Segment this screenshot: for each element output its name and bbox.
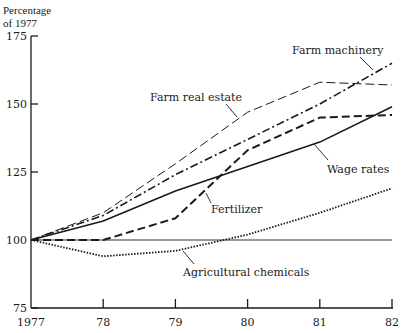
line-chart: 75100125150175 19777879808182 Farm machi… xyxy=(0,0,403,333)
label-wage-rates: Wage rates xyxy=(327,163,390,176)
y-tick-label: 125 xyxy=(6,166,27,179)
leader-fertilizer xyxy=(206,193,211,203)
leader-farm-real-estate xyxy=(226,104,237,117)
x-tick-label: 81 xyxy=(313,316,327,329)
x-tick-label: 1977 xyxy=(17,316,45,329)
label-agricultural-chemicals: Agricultural chemicals xyxy=(182,266,310,279)
leader-farm-machinery xyxy=(360,57,373,70)
y-tick-label: 175 xyxy=(6,30,27,43)
x-tick-label: 78 xyxy=(96,316,110,329)
y-tick-label: 150 xyxy=(6,98,27,111)
series-farm-real-estate xyxy=(31,82,392,240)
series-agricultural-chemicals xyxy=(31,188,392,256)
leader-agricultural-chemicals xyxy=(183,251,194,264)
y-ticks: 75100125150175 xyxy=(6,30,38,315)
x-tick-label: 79 xyxy=(168,316,182,329)
x-tick-label: 82 xyxy=(385,316,399,329)
label-fertilizer: Fertilizer xyxy=(211,203,263,216)
leader-lines xyxy=(183,57,373,264)
y-tick-label: 100 xyxy=(6,234,27,247)
y-tick-label: 75 xyxy=(13,302,27,315)
label-farm-real-estate: Farm real estate xyxy=(150,91,242,104)
x-ticks: 19777879808182 xyxy=(17,299,399,329)
label-farm-machinery: Farm machinery xyxy=(292,44,384,57)
leader-wage-rates xyxy=(314,144,328,160)
x-tick-label: 80 xyxy=(241,316,255,329)
